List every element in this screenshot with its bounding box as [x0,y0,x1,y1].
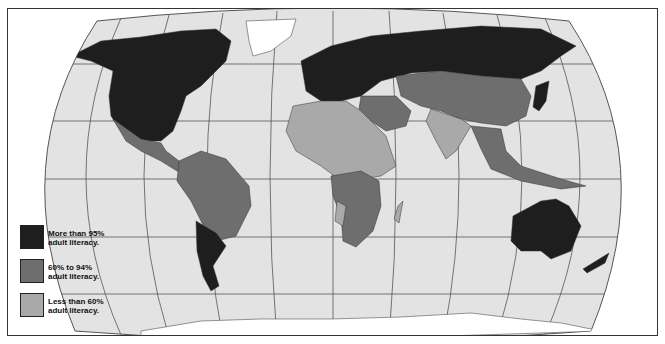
legend-swatch-low [20,293,44,317]
legend-label: adult literacy. [48,306,104,315]
legend-item-high: More than 95% adult literacy. [20,225,140,251]
legend-label: 60% to 94% [48,263,99,272]
legend-swatch-high [20,225,44,249]
legend-item-medium: 60% to 94% adult literacy. [20,259,140,285]
legend-label: More than 95% [48,229,104,238]
map-frame: More than 95% adult literacy. 60% to 94%… [7,8,658,336]
legend-swatch-medium [20,259,44,283]
legend: More than 95% adult literacy. 60% to 94%… [20,225,140,327]
legend-label: Less than 60% [48,297,104,306]
legend-label: adult literacy. [48,272,99,281]
legend-item-low: Less than 60% adult literacy. [20,293,140,319]
legend-label: adult literacy. [48,238,104,247]
